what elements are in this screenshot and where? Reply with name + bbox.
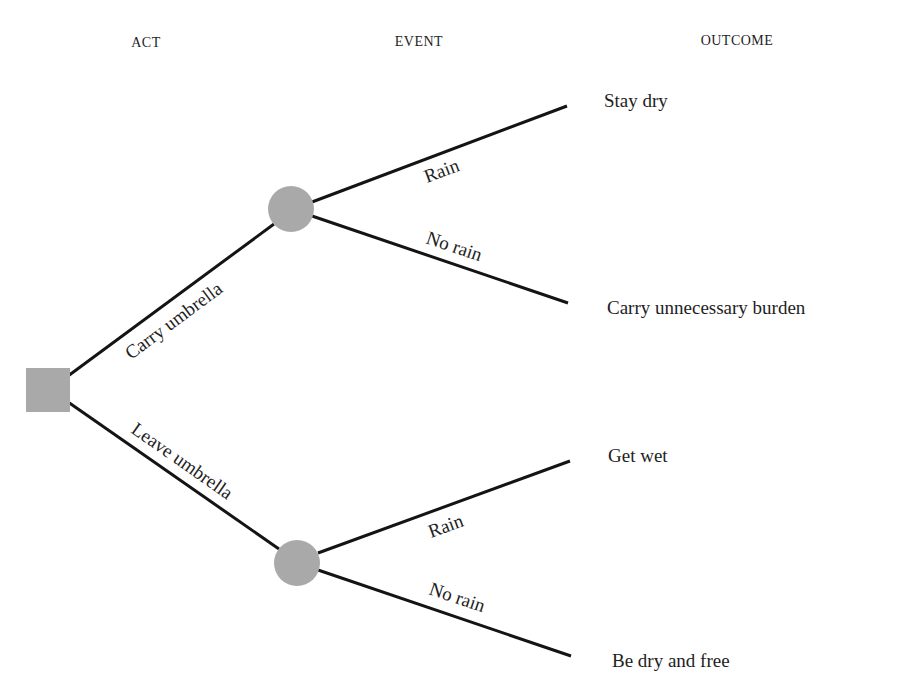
branch-line-leave-umbrella: [68, 402, 279, 549]
header-outcome: OUTCOME: [701, 33, 774, 48]
chance-node-leave-umbrella: [274, 540, 320, 586]
chance-node-carry-umbrella: [268, 186, 314, 232]
branch-line-carry-rain: [312, 106, 567, 202]
branch-line-carry-umbrella: [68, 224, 274, 376]
decision-tree: ACT EVENT OUTCOME Carry umbrella Leave u…: [0, 0, 900, 698]
header-event: EVENT: [395, 34, 443, 49]
decision-node-square: [26, 368, 70, 412]
outcome-carry-unnecessary-burden: Carry unnecessary burden: [607, 297, 806, 318]
event-label-carry-no-rain: No rain: [424, 227, 486, 265]
act-label-carry-umbrella: Carry umbrella: [121, 277, 227, 363]
branch-line-leave-rain: [318, 461, 570, 553]
event-label-leave-rain: Rain: [425, 510, 466, 542]
outcome-get-wet: Get wet: [608, 445, 668, 466]
act-label-leave-umbrella: Leave umbrella: [128, 418, 238, 504]
outcome-be-dry-and-free: Be dry and free: [612, 650, 730, 671]
branch-line-carry-no-rain: [312, 216, 568, 303]
header-act: ACT: [131, 35, 161, 50]
outcome-stay-dry: Stay dry: [604, 90, 668, 111]
